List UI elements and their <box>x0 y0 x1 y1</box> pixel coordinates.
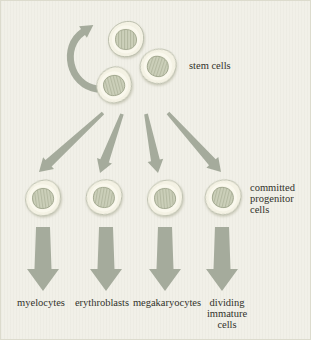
progenitor-label-line: progenitor <box>250 193 295 204</box>
maturation-arrow-2 <box>90 227 122 291</box>
stem-cell-2 <box>136 44 180 88</box>
lineage-label-myelocytes: myelocytes <box>17 298 65 309</box>
maturation-arrow-1 <box>27 227 59 291</box>
progenitor-cell-2 <box>84 177 125 218</box>
lineage-label-erythroblasts: erythroblasts <box>75 298 129 309</box>
progenitor-label-line: committed <box>250 182 295 193</box>
stem-cell-3 <box>92 63 135 106</box>
lineage-label-line: cells <box>207 320 247 331</box>
maturation-arrow-4 <box>206 227 238 291</box>
progenitor-label-line: cells <box>250 204 295 215</box>
lineage-label-line: immature <box>207 309 247 320</box>
maturation-arrow-3 <box>149 227 181 291</box>
self-renewal-arrow <box>70 25 97 89</box>
cells-and-arrows-graphic <box>1 1 310 339</box>
lineage-label-dividing-immature-cells: dividing immature cells <box>207 298 247 330</box>
progenitor-cell-1 <box>23 178 63 218</box>
differentiation-arrow-3 <box>144 114 163 173</box>
diagram-canvas: stem cells committed progenitor cells my… <box>0 0 311 340</box>
differentiation-arrow-1 <box>39 112 104 172</box>
differentiation-arrow-2 <box>97 113 124 173</box>
stem-cell-1 <box>108 21 143 56</box>
progenitor-cells-label: committed progenitor cells <box>250 182 295 215</box>
stem-cells-label: stem cells <box>189 60 231 71</box>
progenitor-cell-4 <box>202 176 245 219</box>
differentiation-arrow-4 <box>167 112 221 172</box>
lineage-label-megakaryocytes: megakaryocytes <box>133 298 201 309</box>
progenitor-cell-3 <box>146 179 184 217</box>
